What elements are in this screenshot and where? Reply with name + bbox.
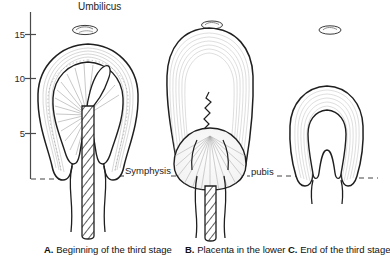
panel-c-caption: C. End of the third stage bbox=[288, 244, 390, 255]
umbilicus-label: Umbilicus bbox=[78, 1, 121, 12]
panel-c-letter: C. bbox=[288, 244, 298, 255]
panel-a-caption-text: Beginning of the third stage bbox=[56, 244, 172, 255]
panel-b-caption: B. Placenta in the lower bbox=[185, 244, 285, 255]
umbilicus-marker-a bbox=[73, 25, 98, 34]
panel-b-caption-text: Placenta in the lower bbox=[197, 244, 285, 255]
umbilicus-marker-c bbox=[319, 26, 341, 34]
axis-tick-label-15: 15 bbox=[9, 29, 25, 40]
panel-c-caption-text: End of the third stage bbox=[300, 244, 390, 255]
pubis-label: pubis bbox=[251, 166, 274, 177]
panel-b-letter: B. bbox=[185, 244, 195, 255]
panel-a-caption: A. Beginning of the third stage bbox=[44, 244, 172, 255]
panel-a-letter: A. bbox=[44, 244, 54, 255]
symphysis-label: Symphysis bbox=[125, 165, 171, 176]
umbilical-cord-b bbox=[205, 186, 216, 241]
umbilical-cord-a bbox=[82, 106, 94, 239]
axis-tick-label-10: 10 bbox=[9, 73, 25, 84]
axis-tick-label-5: 5 bbox=[9, 128, 25, 139]
